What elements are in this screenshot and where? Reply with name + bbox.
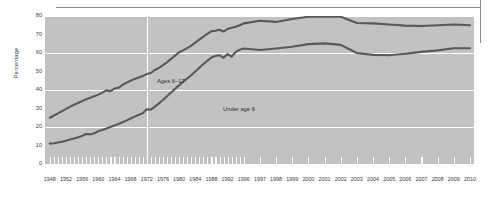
x-tick-1976: 1976 [157, 177, 169, 182]
x-minor-tickmark [191, 157, 192, 164]
x-tickmark-1952 [66, 157, 67, 164]
x-tickmark-1948 [50, 157, 51, 164]
x-tick-1960: 1960 [92, 177, 104, 182]
series-line-ages-6-17 [50, 16, 470, 117]
y-tick-20: 20 [20, 124, 42, 130]
series-line-under-age-6 [50, 43, 470, 143]
x-tick-1956: 1956 [76, 177, 88, 182]
x-minor-tickmark [74, 157, 75, 164]
x-minor-tickmark [70, 157, 71, 164]
x-minor-tickmark [220, 157, 221, 164]
x-minor-tickmark [86, 157, 87, 164]
x-minor-tickmark [123, 157, 124, 164]
x-minor-tickmark [199, 157, 200, 164]
x-minor-tickmark [143, 157, 144, 164]
x-tickmark-1980 [179, 157, 180, 164]
x-tick-2000: 2000 [302, 177, 314, 182]
x-minor-tickmark [207, 157, 208, 164]
y-tick-10: 10 [20, 143, 42, 149]
x-minor-tickmark [224, 157, 225, 164]
x-tick-2008: 2008 [432, 177, 444, 182]
x-tick-1952: 1952 [60, 177, 72, 182]
x-minor-tickmark [139, 157, 140, 164]
x-tick-1999: 1999 [286, 177, 298, 182]
x-axis-tick-marks [45, 157, 474, 164]
x-tickmark-2007 [421, 157, 422, 164]
y-tick-0: 0 [20, 161, 42, 167]
series-lines [45, 16, 474, 164]
x-minor-tickmark [171, 157, 172, 164]
x-tick-1980: 1980 [173, 177, 185, 182]
x-tickmark-1997 [260, 157, 261, 164]
x-tickmark-2003 [357, 157, 358, 164]
y-tick-80: 80 [20, 13, 42, 19]
x-tickmark-2009 [454, 157, 455, 164]
x-minor-tickmark [78, 157, 79, 164]
x-tick-1988: 1988 [205, 177, 217, 182]
x-minor-tickmark [119, 157, 120, 164]
x-tick-1997: 1997 [254, 177, 266, 182]
chart-figure: Percentage 01020304050607080 Ages 6–17 U… [0, 0, 496, 198]
right-divider-rule [480, 0, 481, 43]
x-tickmark-1984 [195, 157, 196, 164]
x-tickmark-1960 [98, 157, 99, 164]
x-minor-tickmark [203, 157, 204, 164]
x-tickmark-2002 [341, 157, 342, 164]
x-tick-1996: 1996 [238, 177, 250, 182]
x-tick-2006: 2006 [399, 177, 411, 182]
x-tick-1998: 1998 [270, 177, 282, 182]
y-tick-40: 40 [20, 87, 42, 93]
x-tickmark-1992 [228, 157, 229, 164]
x-minor-tickmark [151, 157, 152, 164]
x-tickmark-1999 [292, 157, 293, 164]
x-minor-tickmark [236, 157, 237, 164]
x-tickmark-1988 [211, 157, 212, 164]
y-axis-tick-labels: 01020304050607080 [17, 16, 42, 164]
x-tick-1948: 1948 [44, 177, 56, 182]
x-tickmark-2000 [308, 157, 309, 164]
x-minor-tickmark [159, 157, 160, 164]
x-tickmark-1972 [147, 157, 148, 164]
series-label-under-age-6: Under age 6 [223, 106, 255, 112]
x-tick-1984: 1984 [189, 177, 201, 182]
x-minor-tickmark [106, 157, 107, 164]
x-minor-tickmark [232, 157, 233, 164]
x-minor-tickmark [135, 157, 136, 164]
y-tick-70: 70 [20, 32, 42, 38]
x-tickmark-1998 [276, 157, 277, 164]
x-tickmark-2001 [325, 157, 326, 164]
x-tickmark-1968 [131, 157, 132, 164]
x-minor-tickmark [62, 157, 63, 164]
x-tick-1964: 1964 [108, 177, 120, 182]
x-tickmark-2005 [389, 157, 390, 164]
y-tick-50: 50 [20, 69, 42, 75]
x-minor-tickmark [102, 157, 103, 164]
x-tickmark-2010 [470, 157, 471, 164]
x-tick-1972: 1972 [141, 177, 153, 182]
series-label-ages-6-17: Ages 6–17 [157, 78, 185, 84]
x-tick-2004: 2004 [367, 177, 379, 182]
x-minor-tickmark [54, 157, 55, 164]
plot-area: Ages 6–17 Under age 6 [45, 16, 474, 164]
x-tick-2010: 2010 [464, 177, 476, 182]
x-minor-tickmark [90, 157, 91, 164]
x-minor-tickmark [167, 157, 168, 164]
x-minor-tickmark [215, 157, 216, 164]
x-minor-tickmark [187, 157, 188, 164]
x-tick-1968: 1968 [125, 177, 137, 182]
y-tick-30: 30 [20, 106, 42, 112]
x-tickmark-1964 [114, 157, 115, 164]
x-tickmark-1956 [82, 157, 83, 164]
x-minor-tickmark [183, 157, 184, 164]
y-tick-60: 60 [20, 50, 42, 56]
x-axis-tick-labels: 1948195219561960196419681972197619801984… [45, 177, 474, 187]
x-tickmark-1996 [244, 157, 245, 164]
top-divider-rule [56, 7, 481, 8]
x-tick-1992: 1992 [222, 177, 234, 182]
x-minor-tickmark [110, 157, 111, 164]
x-minor-tickmark [127, 157, 128, 164]
x-tick-2003: 2003 [351, 177, 363, 182]
x-tickmark-2006 [405, 157, 406, 164]
x-tickmark-1976 [163, 157, 164, 164]
x-minor-tickmark [58, 157, 59, 164]
